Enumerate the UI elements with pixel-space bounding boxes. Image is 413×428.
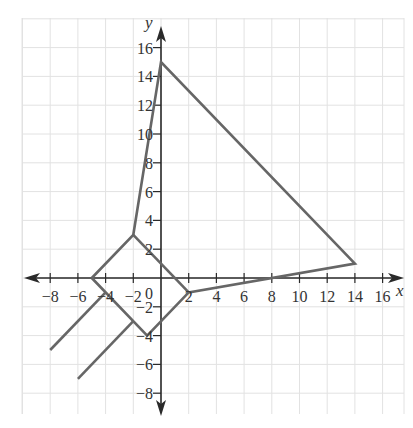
y-tick-label: 4 <box>145 212 153 229</box>
x-tick-label: 12 <box>319 288 335 305</box>
origin-label: 0 <box>145 285 153 302</box>
x-axis-label: x <box>395 281 404 300</box>
axes <box>24 26 404 416</box>
y-tick-label: 12 <box>137 97 153 114</box>
grid-lines <box>22 18 404 414</box>
x-tick-label: 4 <box>212 288 220 305</box>
y-tick-label: 14 <box>137 68 153 85</box>
coordinate-plane: −8−6−4−2246810121416161412108642−2−4−6−8… <box>0 0 413 428</box>
x-tick-label: −6 <box>69 288 86 305</box>
y-tick-label: −6 <box>136 356 153 373</box>
y-tick-label: 6 <box>145 184 153 201</box>
x-tick-label: 8 <box>268 288 276 305</box>
y-tick-label: 10 <box>137 126 153 143</box>
x-tick-label: 2 <box>185 288 193 305</box>
y-tick-label: −8 <box>136 385 153 402</box>
y-tick-label: 16 <box>137 40 153 57</box>
y-tick-label: 8 <box>145 155 153 172</box>
x-tick-label: −8 <box>42 288 59 305</box>
x-tick-label: 6 <box>240 288 248 305</box>
x-tick-label: 10 <box>292 288 308 305</box>
x-tick-label: 14 <box>347 288 363 305</box>
y-axis-label: y <box>143 13 153 32</box>
y-tick-label: −4 <box>136 328 153 345</box>
y-tick-label: 2 <box>145 241 153 258</box>
x-tick-label: 16 <box>375 288 391 305</box>
x-tick-label: −4 <box>97 288 114 305</box>
